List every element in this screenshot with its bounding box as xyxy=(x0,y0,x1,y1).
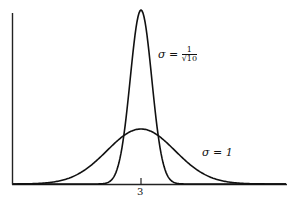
narrow-curve-label: σ = 1√10 xyxy=(158,46,197,63)
equals: = xyxy=(166,48,182,61)
curve-sigma-1 xyxy=(13,129,286,184)
wide-curve-label: σ = 1 xyxy=(202,146,233,159)
normal-curves-plot xyxy=(0,0,295,203)
x-tick-label-3: 3 xyxy=(137,186,143,197)
fraction-denominator: √10 xyxy=(182,55,197,63)
curve-sigma-1-over-sqrt10 xyxy=(13,10,286,184)
fraction: 1√10 xyxy=(182,46,197,63)
sigma-symbol: σ xyxy=(158,48,166,61)
